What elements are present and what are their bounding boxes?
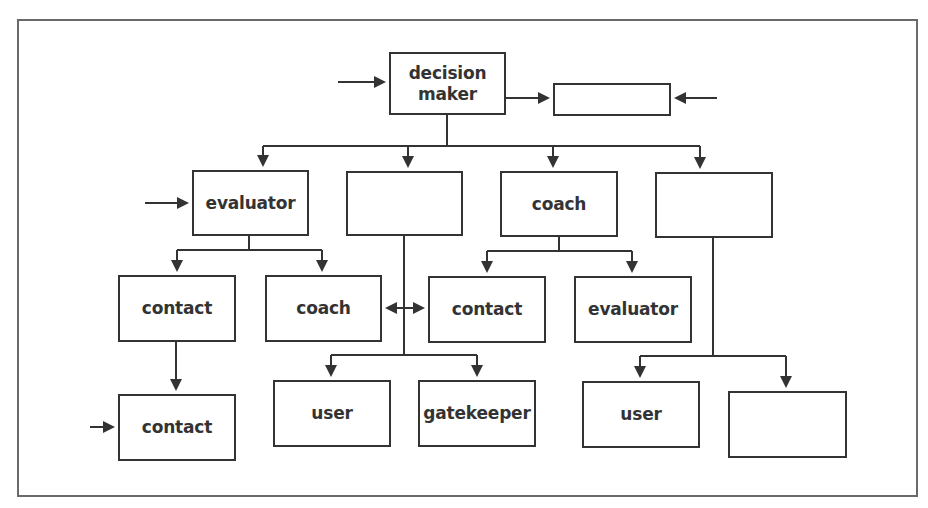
arrowhead-icon xyxy=(780,376,792,388)
arrowhead-icon xyxy=(413,302,425,314)
node-blank-l2-a xyxy=(346,171,463,236)
arrowhead-icon xyxy=(374,76,386,88)
node-contact-l3-right: contact xyxy=(428,276,546,343)
node-top-right-blank xyxy=(553,83,671,116)
node-contact-l4: contact xyxy=(118,394,236,461)
node-contact-l3-left: contact xyxy=(118,275,236,342)
arrowhead-icon xyxy=(547,156,559,168)
node-coach-l2: coach xyxy=(500,171,618,237)
node-user-l4-left: user xyxy=(273,380,391,447)
arrowhead-icon xyxy=(316,260,328,272)
node-gatekeeper-l4: gatekeeper xyxy=(418,380,536,447)
node-coach-l3: coach xyxy=(265,275,382,342)
arrowhead-icon xyxy=(257,155,269,167)
node-blank-l2-b xyxy=(655,172,773,238)
arrowhead-icon xyxy=(325,365,337,377)
arrowhead-icon xyxy=(170,379,182,391)
arrowhead-icon xyxy=(402,156,414,168)
arrowhead-icon xyxy=(103,421,115,433)
arrowhead-icon xyxy=(694,157,706,169)
node-evaluator-l2: evaluator xyxy=(192,170,309,236)
node-decision-maker: decision maker xyxy=(389,52,506,115)
node-blank-l4 xyxy=(728,391,847,458)
org-chart-diagram: decision makerevaluatorcoachcontactcoach… xyxy=(0,0,928,508)
arrowhead-icon xyxy=(471,365,483,377)
arrowhead-icon xyxy=(634,366,646,378)
arrowhead-icon xyxy=(481,261,493,273)
arrowhead-icon xyxy=(626,261,638,273)
arrowhead-icon xyxy=(674,92,686,104)
node-user-l4-right: user xyxy=(582,381,700,448)
node-evaluator-l3: evaluator xyxy=(574,276,692,343)
arrowhead-icon xyxy=(171,260,183,272)
arrowhead-icon xyxy=(385,302,397,314)
arrowhead-icon xyxy=(177,197,189,209)
arrowhead-icon xyxy=(538,92,550,104)
